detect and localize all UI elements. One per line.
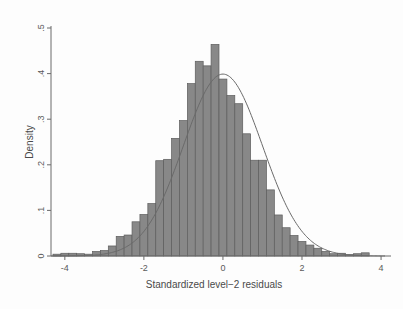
- histogram-bar: [314, 248, 322, 256]
- x-tick-label: 2: [299, 263, 304, 273]
- x-tick-label: 0: [220, 263, 225, 273]
- histogram-bar: [172, 138, 180, 256]
- x-axis-title: Standardized level−2 residuals: [146, 279, 282, 290]
- y-tick-label: .1: [36, 207, 46, 215]
- x-tick-label: -4: [61, 263, 69, 273]
- x-tick-label: -2: [140, 263, 148, 273]
- histogram-bar: [195, 61, 203, 256]
- histogram-bar: [259, 160, 267, 256]
- histogram-figure: -4-2024 0.1.2.3.4.5 Standardized level−2…: [0, 0, 403, 309]
- histogram-bar: [108, 246, 116, 256]
- y-tick-label: .3: [36, 115, 46, 123]
- histogram-bar: [132, 222, 140, 256]
- histogram-bar: [290, 235, 298, 256]
- histogram-bar: [306, 245, 314, 256]
- x-tick-label: 4: [379, 263, 384, 273]
- histogram-bar: [156, 161, 164, 256]
- histogram-bar: [187, 84, 195, 256]
- histogram-bar: [243, 134, 251, 256]
- histogram-bar: [164, 159, 172, 256]
- histogram-bar: [148, 204, 156, 256]
- histogram-bar: [274, 215, 282, 256]
- chart-page: -4-2024 0.1.2.3.4.5 Standardized level−2…: [0, 0, 403, 309]
- x-tick-labels: -4-2024: [61, 263, 384, 273]
- histogram-svg: -4-2024 0.1.2.3.4.5 Standardized level−2…: [0, 0, 403, 309]
- histogram-bars: [53, 44, 369, 256]
- histogram-bar: [251, 160, 259, 256]
- histogram-bar: [282, 228, 290, 256]
- histogram-bar: [116, 236, 124, 256]
- histogram-bar: [179, 121, 187, 256]
- histogram-bar: [203, 66, 211, 256]
- y-axis-title: Density: [24, 125, 35, 158]
- histogram-bar: [219, 79, 227, 256]
- y-tick-label: .2: [36, 161, 46, 169]
- y-tick-label: .5: [36, 24, 46, 32]
- y-tick-labels: 0.1.2.3.4.5: [36, 24, 46, 258]
- histogram-bar: [322, 251, 330, 256]
- y-tick-label: .4: [36, 70, 46, 78]
- histogram-bar: [266, 190, 274, 256]
- y-tick-label: 0: [36, 253, 46, 258]
- histogram-bar: [235, 104, 243, 256]
- histogram-bar: [298, 241, 306, 256]
- histogram-bar: [227, 95, 235, 256]
